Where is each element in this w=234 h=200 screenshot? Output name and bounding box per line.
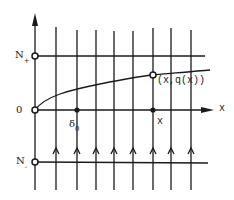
flow-arrow-icons: [53, 148, 194, 154]
zero-label: 0: [16, 105, 22, 115]
n-plus-label: N+: [15, 50, 30, 60]
x-point-label: x: [157, 117, 163, 127]
curve-point-marker-icon: [150, 72, 156, 78]
x-axis-arrow-icon: [201, 107, 214, 113]
vertical-axis-arrow-icon: [32, 13, 38, 26]
n-minus-line: [35, 162, 208, 163]
x-point-icon: [150, 107, 155, 112]
phase-diagram: [0, 0, 234, 200]
n-minus-label: N-: [16, 156, 27, 166]
curve-point-label: (x,q(x)): [157, 76, 205, 86]
delta0-label: δ0: [69, 119, 80, 129]
delta0-point-icon: [74, 107, 79, 112]
x-axis-label: x: [219, 104, 225, 114]
